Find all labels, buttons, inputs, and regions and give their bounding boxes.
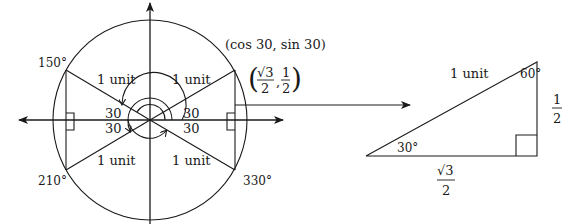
- point-label: (cos 30, sin 30): [225, 37, 326, 52]
- separator: ,: [276, 74, 280, 89]
- triangle-bottom-angle: 30°: [397, 141, 418, 155]
- triangle-hypotenuse-label: 1 unit: [450, 66, 489, 81]
- point-value: ( √3 2 , 1 2 ): [248, 62, 302, 96]
- hyp-label-upper-right: 1 unit: [172, 72, 211, 87]
- unit-circle-diagram: 150° 210° 330° 1 unit 1 unit 1 unit 1 un…: [0, 0, 571, 224]
- angle-label-210: 210°: [38, 174, 67, 188]
- triangle-vertical-side-label: 1 2: [552, 92, 562, 126]
- center-angle-left-lower: 30: [105, 121, 122, 136]
- y-denominator: 2: [282, 81, 290, 96]
- vertical-numerator: 1: [553, 92, 561, 107]
- hyp-label-lower-left: 1 unit: [97, 153, 136, 168]
- horizontal-denominator: 2: [442, 183, 450, 198]
- y-numerator: 1: [282, 65, 290, 80]
- arc-30: [137, 104, 165, 120]
- triangle-top-angle: 60°: [520, 67, 541, 81]
- right-angle-mark-right: [227, 113, 235, 130]
- triangle-right-angle-mark: [516, 135, 537, 156]
- close-paren: ): [291, 62, 302, 95]
- center-angle-left-upper: 30: [105, 106, 122, 121]
- x-denominator: 2: [261, 81, 269, 96]
- hyp-label-lower-right: 1 unit: [172, 153, 211, 168]
- x-numerator: √3: [257, 65, 274, 80]
- vertical-denominator: 2: [553, 111, 561, 126]
- right-angle-mark-left: [66, 113, 74, 130]
- horizontal-numerator: √3: [437, 163, 454, 178]
- center-angle-right-upper: 30: [183, 106, 200, 121]
- unit-circle: [19, 3, 410, 224]
- center-angle-right-lower: 30: [183, 121, 200, 136]
- angle-label-150: 150°: [38, 56, 67, 70]
- triangle-horizontal-side-label: √3 2: [437, 163, 455, 198]
- hyp-label-upper-left: 1 unit: [97, 72, 136, 87]
- angle-label-330: 330°: [243, 174, 272, 188]
